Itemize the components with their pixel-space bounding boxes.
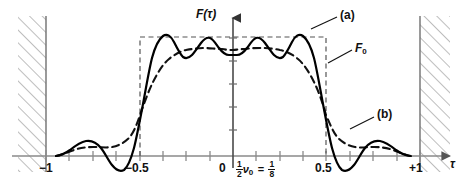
fraction-one-eighth-denominator: 8 bbox=[268, 169, 275, 179]
leader-line-b bbox=[350, 117, 374, 129]
fraction-one-half-denominator: 2 bbox=[236, 169, 243, 179]
nu-symbol-subscript: 0 bbox=[249, 168, 253, 177]
ideal-response-label-sub: 0 bbox=[362, 47, 366, 56]
chart-canvas bbox=[0, 0, 467, 188]
x-tick-label-minus-half: −0.5 bbox=[125, 162, 149, 174]
fraction-one-eighth-numerator: 1 bbox=[268, 160, 275, 169]
fraction-one-half-numerator: 1 bbox=[236, 160, 243, 169]
hatched-region-left bbox=[18, 16, 46, 172]
ideal-response-label: F0 bbox=[355, 42, 367, 56]
y-axis-label: F(τ) bbox=[196, 8, 216, 20]
leader-line-f0 bbox=[328, 50, 352, 63]
x-tick-label-half: 0.5 bbox=[315, 162, 332, 174]
curve-b-label: (b) bbox=[377, 108, 392, 120]
hatched-region-right bbox=[420, 16, 450, 172]
x-tick-label-minus-one: −1 bbox=[39, 162, 53, 174]
equals-sign: = bbox=[257, 164, 265, 175]
fraction-one-eighth: 1 8 bbox=[268, 160, 275, 179]
x-axis-label: τ bbox=[450, 158, 455, 170]
figure-container: F(τ) τ (a) (b) F0 −1 −0.5 0 0.5 +1 1 2 ν… bbox=[0, 0, 467, 188]
curve-a-label: (a) bbox=[340, 9, 355, 21]
x-tick-label-zero: 0 bbox=[219, 162, 226, 174]
leader-line-a bbox=[311, 17, 337, 29]
fraction-one-half: 1 2 bbox=[236, 160, 243, 179]
x-tick-label-nyquist-fraction: 1 2 ν0 = 1 8 bbox=[236, 160, 275, 179]
x-tick-label-plus-one: +1 bbox=[409, 162, 423, 174]
